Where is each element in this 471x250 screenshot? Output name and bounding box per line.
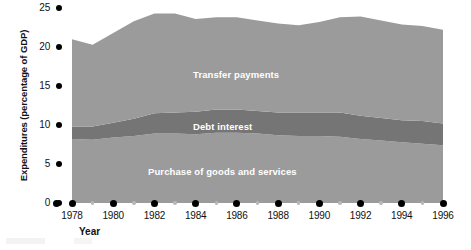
y-tick-label-20: 20 [28, 41, 50, 52]
y-tick-label-5: 5 [28, 158, 50, 169]
x-axis-origin-dot [53, 200, 60, 207]
x-tick-label-1990: 1990 [299, 210, 339, 221]
y-axis-title: Expenditures (percentage of GDP) [18, 6, 29, 206]
x-tick-label-1994: 1994 [382, 210, 422, 221]
page-edge-artifact [6, 238, 116, 244]
x-tick-dot-1994 [398, 200, 405, 207]
x-minor-tick-dot-1987 [256, 201, 260, 205]
x-tick-dot-1986 [233, 200, 240, 207]
x-tick-label-1984: 1984 [176, 210, 216, 221]
y-tick-label-0: 0 [28, 197, 50, 208]
x-tick-label-1978: 1978 [52, 210, 92, 221]
x-minor-tick-dot-1979 [91, 201, 95, 205]
x-tick-label-1996: 1996 [423, 210, 463, 221]
y-tick-label-25: 25 [28, 2, 50, 13]
x-tick-dot-1980 [110, 200, 117, 207]
y-tick-dot-20 [56, 44, 62, 50]
y-tick-label-10: 10 [28, 119, 50, 130]
x-minor-tick-dot-1989 [297, 201, 301, 205]
x-tick-dot-1988 [275, 200, 282, 207]
x-tick-label-1982: 1982 [134, 210, 174, 221]
series-label-debt-interest: Debt interest [193, 121, 252, 132]
x-minor-tick-dot-1985 [215, 201, 219, 205]
x-minor-tick-dot-1995 [421, 201, 425, 205]
y-tick-dot-10 [56, 122, 62, 128]
x-tick-dot-1996 [440, 200, 447, 207]
x-tick-label-1992: 1992 [341, 210, 381, 221]
x-tick-dot-1982 [151, 200, 158, 207]
x-tick-dot-1990 [316, 200, 323, 207]
y-tick-dot-15 [56, 83, 62, 89]
y-tick-label-15: 15 [28, 80, 50, 91]
x-tick-label-1980: 1980 [93, 210, 133, 221]
x-tick-label-1986: 1986 [217, 210, 257, 221]
x-axis-title: Year [79, 226, 100, 237]
y-tick-dot-25 [56, 5, 62, 11]
x-minor-tick-dot-1991 [338, 201, 342, 205]
x-tick-dot-1984 [192, 200, 199, 207]
y-tick-dot-5 [56, 161, 62, 167]
x-minor-tick-dot-1981 [132, 201, 136, 205]
x-tick-dot-1978 [69, 200, 76, 207]
series-label-transfer-payments: Transfer payments [193, 69, 279, 80]
x-tick-dot-1992 [357, 200, 364, 207]
series-label-purchase-goods-services: Purchase of goods and services [148, 166, 297, 177]
x-minor-tick-dot-1993 [379, 201, 383, 205]
x-tick-label-1988: 1988 [258, 210, 298, 221]
x-minor-tick-dot-1983 [173, 201, 177, 205]
chart-figure: Expenditures (percentage of GDP) 0510152… [0, 0, 471, 250]
